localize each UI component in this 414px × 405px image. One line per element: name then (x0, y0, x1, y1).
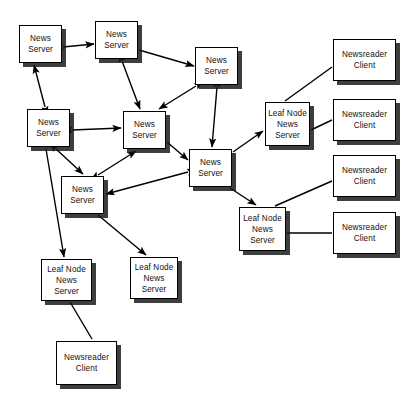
newsreader-client-1-label: Newsreader Client (340, 49, 389, 71)
edge-ns2-ns3 (139, 50, 194, 66)
edge-ns6-ln1 (233, 131, 263, 152)
edge-ns6-ns7 (106, 172, 188, 194)
news-server-lower-left[interactable]: News Server (61, 176, 104, 214)
network-diagram: News ServerNews ServerNews ServerNews Se… (0, 0, 414, 405)
edge-ns1-ns2 (63, 44, 94, 47)
leaf-node-news-server-top-right-label: Leaf Node News Server (266, 108, 309, 141)
edge-ns5-ns7 (98, 151, 136, 175)
news-server-center[interactable]: News Server (123, 111, 166, 149)
news-server-left[interactable]: News Server (27, 109, 70, 147)
edge-ln1-nc2 (311, 120, 332, 130)
edge-ns2-ns5 (122, 61, 140, 109)
news-server-top-left-label: News Server (26, 33, 55, 55)
news-server-right[interactable]: News Server (189, 149, 232, 187)
edge-ns4-ns5 (72, 128, 121, 130)
leaf-node-news-server-top-right[interactable]: Leaf Node News Server (265, 102, 310, 146)
news-server-lower-left-label: News Server (68, 184, 97, 206)
edge-ns5-ns6 (167, 142, 188, 160)
leaf-node-news-server-bottom-right[interactable]: Leaf Node News Server (239, 207, 286, 251)
news-server-top-right[interactable]: News Server (195, 47, 238, 85)
newsreader-client-3[interactable]: Newsreader Client (333, 155, 396, 197)
edge-ln1-nc1 (285, 67, 332, 101)
newsreader-client-2-label: Newsreader Client (340, 109, 389, 131)
leaf-node-news-server-bottom-middle-label: Leaf Node News Server (133, 262, 176, 295)
edge-ns3-ns6 (212, 87, 217, 147)
newsreader-client-1[interactable]: Newsreader Client (333, 39, 396, 81)
news-server-center-label: News Server (130, 119, 159, 141)
edge-ns4-ns7 (56, 149, 83, 174)
newsreader-client-4[interactable]: Newsreader Client (333, 212, 396, 254)
news-server-right-label: News Server (196, 157, 225, 179)
news-server-top-left[interactable]: News Server (19, 25, 62, 63)
edge-ns7-ln4 (98, 215, 146, 255)
leaf-node-news-server-bottom-left[interactable]: Leaf Node News Server (41, 259, 92, 301)
news-server-left-label: News Server (34, 117, 63, 139)
newsreader-client-bottom-label: Newsreader Client (62, 352, 111, 374)
newsreader-client-bottom[interactable]: Newsreader Client (56, 341, 117, 385)
leaf-node-news-server-bottom-left-label: Leaf Node News Server (45, 264, 88, 297)
news-server-top-right-label: News Server (202, 55, 231, 77)
leaf-node-news-server-bottom-right-label: Leaf Node News Server (241, 213, 284, 246)
leaf-node-news-server-bottom-middle[interactable]: Leaf Node News Server (130, 257, 178, 299)
newsreader-client-2[interactable]: Newsreader Client (333, 99, 396, 141)
edge-ln2-nc3 (275, 181, 332, 206)
edge-ns1-ns4 (34, 65, 45, 107)
newsreader-client-3-label: Newsreader Client (340, 165, 389, 187)
edge-ns6-ln2 (230, 188, 256, 205)
news-server-top-middle[interactable]: News Server (95, 21, 138, 59)
edge-ln3-nc5 (70, 302, 92, 339)
newsreader-client-4-label: Newsreader Client (340, 222, 389, 244)
edge-ns3-ns5 (159, 86, 196, 109)
news-server-top-middle-label: News Server (102, 29, 131, 51)
